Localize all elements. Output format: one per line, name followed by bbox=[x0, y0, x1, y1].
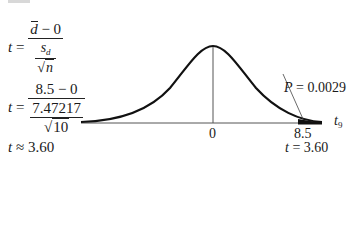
p-value-label: P = 0.0029 bbox=[284, 80, 346, 96]
axis-label: t9 bbox=[334, 113, 342, 130]
tick-label-center: 0 bbox=[209, 126, 216, 142]
t-stat-label: t = 3.60 bbox=[285, 140, 328, 155]
